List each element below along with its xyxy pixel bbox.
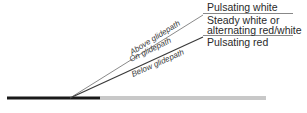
- zone-label-above: Pulsating white: [207, 2, 278, 13]
- zone-label-on-line2: alternating red/white: [207, 25, 302, 36]
- runway-approach-segment: [7, 97, 100, 100]
- zone-label-below: Pulsating red: [207, 37, 268, 48]
- runway-segment: [100, 96, 266, 100]
